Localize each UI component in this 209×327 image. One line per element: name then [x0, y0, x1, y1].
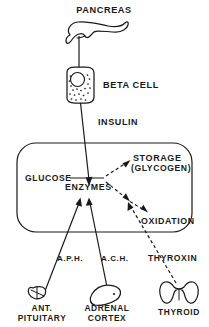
glycogen-label: (GLYCOGEN): [131, 163, 191, 173]
oxidation-pathway-arrow: [106, 182, 148, 213]
adrenal-label-line2: CORTEX: [88, 313, 127, 323]
pancreas-label: PANCREAS: [76, 5, 132, 15]
beta-cell-icon: [67, 67, 94, 103]
aph-label: A.P.H.: [57, 254, 83, 263]
pituitary-gland-icon: [28, 287, 46, 299]
thyroxin-label: THYROXIN: [148, 253, 197, 263]
pituitary-label-line2: PITUITARY: [18, 313, 67, 323]
aph-arrow: [45, 198, 82, 292]
thyroid-gland-icon: [160, 282, 199, 303]
enzymes-label: ENZYMES: [65, 182, 112, 192]
oxidation-label: OXIDATION: [141, 216, 195, 226]
thyroid-label: THYROID: [158, 307, 200, 317]
pancreas-icon: [66, 22, 128, 43]
storage-pathway-arrow: [106, 160, 131, 176]
ach-label: A.C.H.: [101, 254, 129, 263]
ach-arrow: [86, 198, 107, 288]
insulin-metabolism-diagram: PANCREAS: [0, 0, 209, 327]
insulin-arrow: [81, 103, 93, 186]
beta-cell-label: BETA CELL: [103, 80, 159, 90]
storage-label: STORAGE: [133, 153, 182, 163]
adrenal-label-line1: ADRENAL: [84, 303, 129, 313]
thyroxin-arrow: [128, 202, 177, 283]
diagram-canvas: PANCREAS: [0, 0, 209, 327]
pituitary-label-line1: ANT.: [31, 303, 52, 313]
insulin-label: INSULIN: [98, 117, 138, 127]
